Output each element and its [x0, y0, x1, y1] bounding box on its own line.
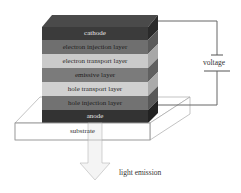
layer-label-hole-injection: hole injection layer — [42, 96, 148, 110]
layer-label-anode: anode — [42, 109, 148, 123]
layer-label-electron-injection: electron injection layer — [42, 40, 148, 54]
light-emission-label: light emission — [119, 168, 161, 177]
layer-label-emissive: emissive layer — [42, 68, 148, 82]
layer-label-electron-transport: electron transport layer — [42, 54, 148, 68]
circuit-wire — [158, 21, 217, 55]
substrate-label: substrate — [15, 124, 150, 138]
layer-label-hole-transport: hole transport layer — [42, 82, 148, 96]
voltage-label: voltage — [203, 58, 225, 67]
layer-label-cathode: cathode — [42, 26, 148, 40]
